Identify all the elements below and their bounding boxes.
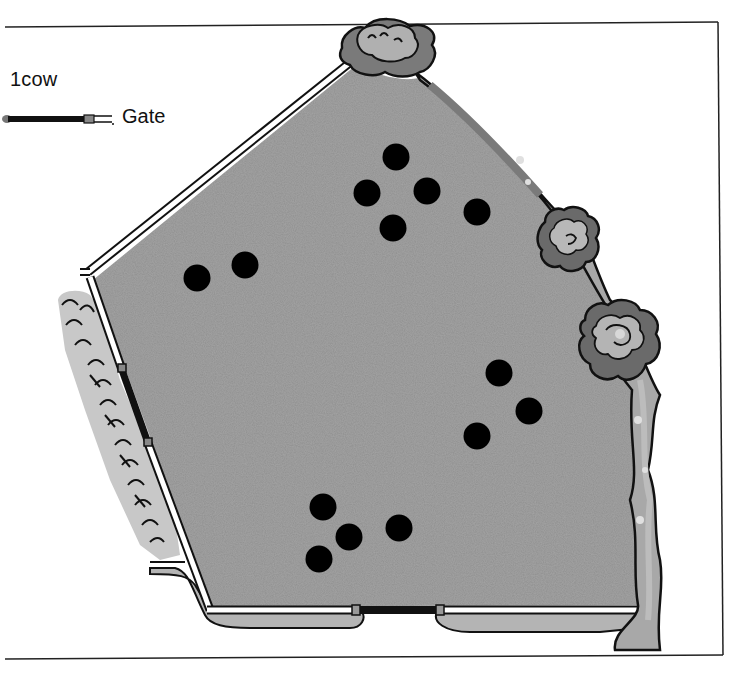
field-diagram: 1cow Gate [0,0,749,676]
top-bush [340,19,435,76]
cow [184,265,211,292]
cow [386,515,413,542]
cow [354,180,381,207]
cow [464,199,491,226]
cow [464,423,491,450]
legend-cow-label: 1cow [10,68,58,91]
cow [414,178,441,205]
bottom-right-path [436,612,645,632]
legend-gate-symbol [2,115,114,125]
cow [486,360,513,387]
cow [232,252,259,279]
bottom-border-line [5,655,723,659]
cow [516,398,543,425]
bottom-gate [352,605,444,615]
bush-1 [538,207,599,271]
cow [310,494,337,521]
field-map [0,0,749,676]
cow [306,546,333,573]
right-border-line [718,22,723,655]
cow [383,144,410,171]
legend-gate-label: Gate [122,105,165,128]
cow [336,524,363,551]
cow [380,215,407,242]
